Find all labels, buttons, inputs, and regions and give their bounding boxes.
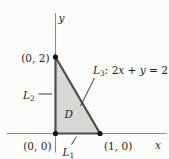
- l1-base: L: [62, 146, 70, 158]
- l3-eq-coefficient: 2: [112, 64, 119, 76]
- l3-separator: :: [105, 64, 112, 76]
- l1-subscript: 1: [69, 151, 74, 158]
- l2-base: L: [22, 89, 30, 101]
- vertex-dot-origin: [53, 131, 58, 136]
- vertex-dot-y-intercept: [53, 54, 58, 59]
- x-axis-label: x: [155, 139, 161, 151]
- l2-subscript: 2: [30, 94, 35, 103]
- y-axis-label: y: [58, 12, 66, 24]
- l3-leader-line: [81, 78, 95, 106]
- region-d-label: D: [64, 108, 74, 120]
- triangle-region-figure: y x (0, 2) (0, 0) (1, 0) D L2 L1 L3: 2x …: [0, 0, 169, 158]
- point-label-x-intercept: (1, 0): [104, 140, 132, 152]
- l3-eq-plus: +: [124, 64, 139, 76]
- l3-base: L: [92, 64, 100, 76]
- l1-leader-line: [72, 137, 77, 145]
- vertex-dot-x-intercept: [97, 131, 102, 136]
- point-label-y-intercept: (0, 2): [21, 52, 49, 64]
- line-l2-label: L2: [22, 89, 35, 103]
- l3-eq-rhs: = 2: [146, 64, 168, 76]
- line-l3-label: L3: 2x + y = 2: [92, 64, 168, 78]
- figure-canvas: y x (0, 2) (0, 0) (1, 0) D L2 L1 L3: 2x …: [0, 0, 169, 158]
- line-l1-label: L1: [62, 146, 75, 159]
- point-label-origin: (0, 0): [23, 140, 51, 152]
